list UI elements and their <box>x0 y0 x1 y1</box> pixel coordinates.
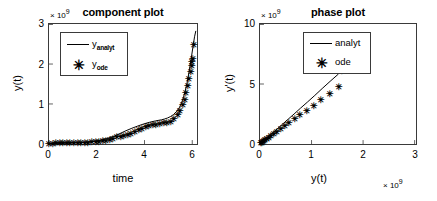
asterisk-icon: ✳ <box>73 58 85 72</box>
phase-x-exponent-mult: × 10 <box>383 181 399 190</box>
phase-legend-ode-label: ode <box>335 56 351 67</box>
component-xtick-0: 0 <box>38 149 58 160</box>
phase-legend-row-ode: ✳ ode <box>304 53 370 73</box>
phase-x-exponent-power: 9 <box>399 178 403 185</box>
phase-legend-row-analyt: analyt <box>304 34 370 54</box>
phase-plot-panel: phase plot × 109 × 109 0 5 10 0 1 2 3 y'… <box>215 0 437 201</box>
component-legend-analyt-label: yanalyt <box>92 38 114 51</box>
component-xtick-2: 4 <box>134 149 154 160</box>
component-legend-ode-label: yode <box>92 58 108 71</box>
component-xtick-3: 6 <box>182 149 202 160</box>
phase-y-exponent-power: 9 <box>277 8 281 15</box>
asterisk-icon: ✳ <box>316 56 328 70</box>
component-plot-panel: component plot × 109 0 1 2 3 0 2 4 6 y(t… <box>0 0 215 201</box>
component-xlabel: time <box>48 172 198 184</box>
phase-legend: analyt ✳ ode <box>303 32 371 74</box>
component-ylabel: y(t) <box>11 63 23 103</box>
phase-y-exponent-mult: × 10 <box>261 11 277 20</box>
phase-legend-analyt-label: analyt <box>335 37 360 48</box>
phase-x-exponent-label: × 109 <box>383 178 403 190</box>
component-xtick-1: 2 <box>86 149 106 160</box>
phase-legend-marker-sample: ✳ <box>308 53 334 73</box>
component-y-exponent-mult: × 10 <box>50 11 66 20</box>
component-legend-marker-sample: ✳ <box>65 55 91 75</box>
component-ytick-3: 3 <box>26 18 44 29</box>
component-legend: yanalyt ✳ yode <box>60 32 128 76</box>
phase-xtick-0: 0 <box>249 149 269 160</box>
phase-y-exponent-label: × 109 <box>261 8 281 20</box>
svg-text:✳: ✳ <box>189 54 197 64</box>
component-ytick-1: 1 <box>26 99 44 110</box>
svg-text:✳: ✳ <box>190 40 198 50</box>
component-y-exponent-power: 9 <box>66 8 70 15</box>
component-legend-line-sample <box>65 35 91 55</box>
component-ytick-2: 2 <box>26 59 44 70</box>
phase-plot-title: phase plot <box>259 6 417 18</box>
phase-xlabel: y(t) <box>259 172 379 184</box>
phase-xtick-1: 1 <box>301 149 321 160</box>
component-legend-row-ode: ✳ yode <box>61 55 127 75</box>
component-plot-title: component plot <box>48 6 198 18</box>
phase-ylabel: y'(t) <box>223 63 235 103</box>
component-y-exponent-label: × 109 <box>50 8 70 20</box>
phase-xtick-2: 2 <box>353 149 373 160</box>
phase-xtick-3: 3 <box>405 149 425 160</box>
svg-text:✳: ✳ <box>335 82 343 92</box>
svg-text:✳: ✳ <box>317 95 325 105</box>
phase-legend-line-sample <box>308 34 334 54</box>
component-legend-row-analyt: yanalyt <box>61 35 127 55</box>
phase-ytick-5: 5 <box>235 79 255 90</box>
svg-text:✳: ✳ <box>326 89 334 99</box>
phase-ytick-10: 10 <box>233 18 255 29</box>
figure-canvas: component plot × 109 0 1 2 3 0 2 4 6 y(t… <box>0 0 437 201</box>
